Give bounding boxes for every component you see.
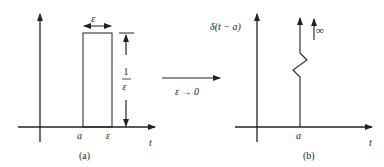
tick-a-label: a	[77, 130, 82, 141]
caption-b: (b)	[303, 150, 315, 162]
x-axis-label-b: t	[369, 137, 372, 148]
infinity-label: ∞	[316, 24, 324, 36]
tick-a-label-b: a	[296, 130, 301, 141]
impulse-line	[293, 20, 307, 127]
width-label: ε	[91, 12, 96, 24]
limit-arrow-group: ε → 0	[162, 78, 220, 97]
pulse-rectangle	[83, 33, 112, 127]
x-axis-label-a: t	[149, 137, 152, 148]
panel-b: ∞ δ(t − a) a t (b)	[210, 14, 372, 162]
panel-a: ε 1 ε a ε t (a)	[18, 12, 155, 162]
y-axis-label-b: δ(t − a)	[210, 21, 242, 33]
caption-a: (a)	[79, 150, 90, 162]
limit-label: ε → 0	[175, 86, 199, 97]
height-numerator: 1	[124, 66, 129, 77]
impulse-diagram: ε 1 ε a ε t (a) ε → 0 ∞ δ(t − a) a t (b)	[0, 0, 384, 167]
height-denominator: ε	[123, 81, 127, 92]
tick-eps-label: ε	[106, 130, 110, 141]
